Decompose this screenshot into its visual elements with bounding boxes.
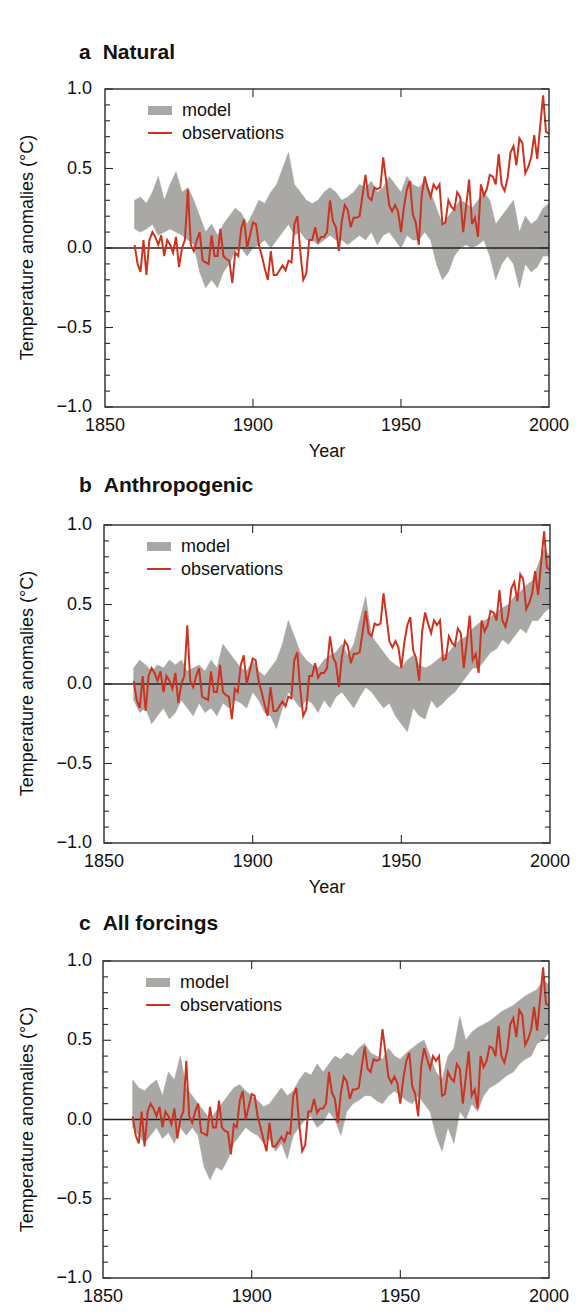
y-tick-label: −0.5 bbox=[56, 317, 92, 338]
y-tick-label: −1.0 bbox=[56, 396, 92, 417]
model-swatch-icon bbox=[148, 106, 172, 115]
x-axis-title: Year bbox=[297, 441, 357, 462]
x-tick-label: 1950 bbox=[378, 851, 424, 872]
legend-label-observations: observations bbox=[181, 558, 283, 580]
x-tick-label: 1950 bbox=[378, 415, 424, 436]
x-tick-label: 2000 bbox=[527, 851, 573, 872]
x-tick-label: 2000 bbox=[526, 415, 572, 436]
y-tick-label: −0.5 bbox=[56, 1188, 92, 1209]
y-axis-title: Temperature anomalies (°C) bbox=[17, 118, 38, 378]
legend: modelobservations bbox=[147, 535, 347, 585]
model-swatch-icon bbox=[146, 978, 170, 987]
x-tick-label: 1900 bbox=[230, 415, 276, 436]
y-tick-label: 0.5 bbox=[67, 158, 92, 179]
panel-a-title: aNatural bbox=[79, 40, 175, 64]
y-tick-label: 0.5 bbox=[67, 594, 92, 615]
panel-a-title-text: Natural bbox=[103, 40, 175, 63]
panel-b-title-text: Anthropogenic bbox=[104, 473, 253, 496]
y-tick-label: −1.0 bbox=[56, 832, 92, 853]
panel-b-letter: b bbox=[79, 473, 92, 496]
y-tick-label: 1.0 bbox=[67, 950, 92, 971]
observations-line-icon bbox=[147, 568, 171, 570]
y-tick-label: 0.5 bbox=[67, 1029, 92, 1050]
observations-line-icon bbox=[146, 1004, 170, 1006]
y-tick-label: 0.0 bbox=[67, 237, 92, 258]
panel-c-title: cAll forcings bbox=[79, 911, 218, 935]
panel-a-letter: a bbox=[79, 40, 91, 63]
x-tick-label: 1850 bbox=[82, 415, 128, 436]
y-tick-label: 1.0 bbox=[67, 514, 92, 535]
panel-c-letter: c bbox=[79, 911, 91, 934]
y-axis-title: Temperature anomalies (°C) bbox=[17, 554, 38, 814]
legend: modelobservations bbox=[146, 971, 346, 1021]
y-tick-label: −0.5 bbox=[56, 753, 92, 774]
x-tick-label: 1850 bbox=[80, 1286, 126, 1307]
panel-b-title: bAnthropogenic bbox=[79, 473, 253, 497]
y-tick-label: 1.0 bbox=[67, 78, 92, 99]
legend-label-model: model bbox=[180, 971, 229, 993]
x-tick-label: 1950 bbox=[377, 1286, 423, 1307]
panel-c-title-text: All forcings bbox=[103, 911, 219, 934]
x-tick-label: 2000 bbox=[526, 1286, 572, 1307]
model-swatch-icon bbox=[147, 542, 171, 551]
legend-label-model: model bbox=[182, 99, 231, 121]
legend: modelobservations bbox=[148, 99, 348, 149]
legend-label-model: model bbox=[181, 535, 230, 557]
legend-label-observations: observations bbox=[180, 994, 282, 1016]
x-tick-label: 1900 bbox=[229, 1286, 275, 1307]
observations-line-icon bbox=[148, 132, 172, 134]
x-tick-label: 1900 bbox=[230, 851, 276, 872]
x-tick-label: 1850 bbox=[81, 851, 127, 872]
legend-label-observations: observations bbox=[182, 122, 284, 144]
x-axis-title: Year bbox=[297, 877, 357, 898]
y-axis-title: Temperature anomalies (°C) bbox=[17, 989, 38, 1249]
y-tick-label: 0.0 bbox=[67, 673, 92, 694]
y-tick-label: −1.0 bbox=[56, 1267, 92, 1288]
y-tick-label: 0.0 bbox=[67, 1109, 92, 1130]
